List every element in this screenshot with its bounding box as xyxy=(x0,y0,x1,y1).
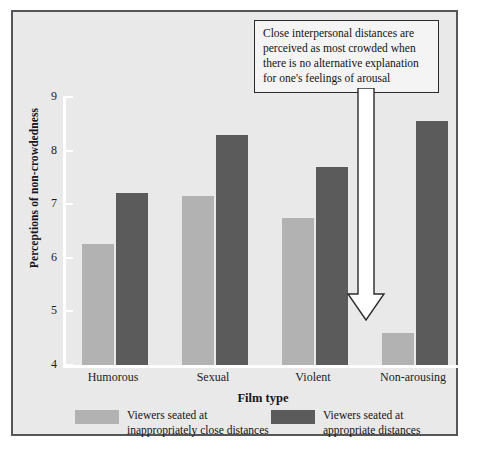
x-axis-line xyxy=(63,365,463,368)
bar-sexual-series-2 xyxy=(216,135,248,365)
legend-swatch-2 xyxy=(271,410,315,424)
y-tick-label-6: 6 xyxy=(37,250,57,265)
bar-non-arousing-series-1 xyxy=(382,333,414,365)
bar-violent-series-1 xyxy=(282,218,314,365)
category-label-violent: Violent xyxy=(263,370,363,385)
legend-item-1: Viewers seated at inappropriately close … xyxy=(75,408,269,437)
annotation-callout: Close interpersonal distances are percei… xyxy=(254,20,439,93)
legend-label-1: Viewers seated at inappropriately close … xyxy=(127,408,269,437)
chart-figure: 456789 Perceptions of non-crowdedness Hu… xyxy=(11,10,458,436)
chart-legend: Viewers seated at inappropriately close … xyxy=(63,408,463,440)
legend-label-2: Viewers seated at appropriate distances xyxy=(323,408,420,437)
category-label-non-arousing: Non-arousing xyxy=(363,370,463,385)
y-tick-label-5: 5 xyxy=(37,303,57,318)
y-tick-label-9: 9 xyxy=(37,89,57,104)
category-label-sexual: Sexual xyxy=(163,370,263,385)
y-tick-label-4: 4 xyxy=(37,357,57,372)
bar-humorous-series-2 xyxy=(116,193,148,365)
bars-layer xyxy=(63,97,463,365)
category-label-humorous: Humorous xyxy=(63,370,163,385)
annotation-arrow-icon xyxy=(343,88,389,334)
x-axis-title: Film type xyxy=(63,391,463,406)
legend-item-2: Viewers seated at appropriate distances xyxy=(271,408,420,437)
legend-swatch-1 xyxy=(75,410,119,424)
y-tick-label-7: 7 xyxy=(37,196,57,211)
plot-area: 456789 Perceptions of non-crowdedness Hu… xyxy=(13,12,456,434)
bar-humorous-series-1 xyxy=(82,244,114,365)
bar-sexual-series-1 xyxy=(182,196,214,365)
y-axis-title: Perceptions of non-crowdedness xyxy=(28,93,40,283)
y-tick-label-8: 8 xyxy=(37,143,57,158)
bar-non-arousing-series-2 xyxy=(416,121,448,365)
